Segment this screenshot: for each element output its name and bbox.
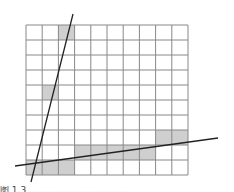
shaded-pixel bbox=[156, 130, 172, 145]
shaded-pixel bbox=[58, 160, 74, 175]
steep-line bbox=[31, 14, 73, 182]
shaded-pixel bbox=[123, 145, 139, 160]
shaded-pixel bbox=[42, 85, 58, 100]
figure-caption: 图 1.3 .................................. bbox=[0, 186, 234, 192]
rasterization-diagram bbox=[0, 0, 234, 192]
shaded-pixel bbox=[91, 145, 107, 160]
